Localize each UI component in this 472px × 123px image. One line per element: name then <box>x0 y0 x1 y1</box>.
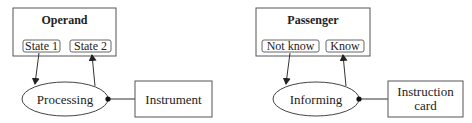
instrument-label: Instrument <box>145 92 202 107</box>
informing-label: Informing <box>290 92 343 107</box>
instrument-link-dot <box>105 96 110 101</box>
arrow-notknow-to-process <box>286 53 290 84</box>
diagram-operand: Operand State 1 State 2 Processing Instr… <box>13 8 212 117</box>
arrow-process-to-know <box>343 55 346 86</box>
instruction-card-link-dot <box>356 96 361 101</box>
instruction-card-label-line2: card <box>414 98 437 113</box>
know-label: Know <box>330 39 360 53</box>
instruction-card-label-line1: Instruction <box>397 84 454 99</box>
process-label: Processing <box>37 92 94 107</box>
operand-title: Operand <box>41 13 87 27</box>
opm-diagrams: Operand State 1 State 2 Processing Instr… <box>0 0 472 123</box>
arrow-state1-to-process <box>35 53 39 84</box>
arrow-process-to-state2 <box>92 55 95 86</box>
state-2-label: State 2 <box>74 39 107 53</box>
state-1-label: State 1 <box>25 39 58 53</box>
not-know-label: Not know <box>267 39 315 53</box>
passenger-title: Passenger <box>287 13 339 27</box>
diagram-passenger: Passenger Not know Know Informing Instru… <box>256 8 463 117</box>
